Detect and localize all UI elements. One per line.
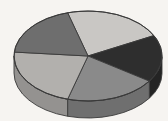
pie-chart-canvas: Slice 1 — 22Slice 2 — 17Slice 3 — 20Slic… [0, 0, 168, 121]
pie-top-faces: Slice 1 — 22Slice 2 — 17Slice 3 — 20Slic… [14, 11, 162, 101]
pie-chart-figure: Slice 1 — 22Slice 2 — 17Slice 3 — 20Slic… [0, 0, 168, 121]
